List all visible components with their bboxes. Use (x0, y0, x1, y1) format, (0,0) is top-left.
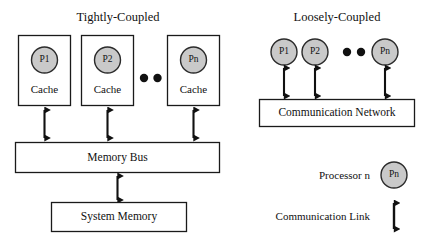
diagram-root: Tightly-Coupled Loosely-Coupled P1 P2 Pn… (0, 0, 425, 247)
legend-label-processor: Processor n (319, 170, 370, 181)
network-processor-label-pn: Pn (380, 47, 390, 57)
cache-label-1: Cache (31, 84, 58, 95)
ellipsis-dot-left (140, 74, 148, 82)
communication-network-label: Communication Network (278, 107, 395, 119)
processor-label-p2: P2 (102, 55, 112, 65)
network-ellipsis-dot-right (357, 48, 365, 56)
cache-label-2: Cache (94, 84, 121, 95)
title-tightly-coupled: Tightly-Coupled (77, 11, 160, 24)
tightly-coupled-group (16, 36, 220, 232)
network-processor-label-p1: P1 (279, 47, 289, 57)
network-ellipsis-dot-left (343, 48, 351, 56)
ellipsis-dot-right (153, 74, 161, 82)
legend-label-communication-link: Communication Link (276, 211, 370, 222)
processor-label-pn: Pn (188, 55, 198, 65)
legend-processor-symbol-label: Pn (389, 170, 399, 180)
network-processor-label-p2: P2 (310, 47, 320, 57)
cache-label-3: Cache (180, 84, 207, 95)
processor-label-p1: P1 (39, 55, 49, 65)
memory-bus-label: Memory Bus (87, 152, 147, 164)
title-loosely-coupled: Loosely-Coupled (294, 11, 381, 24)
system-memory-label: System Memory (81, 211, 157, 223)
